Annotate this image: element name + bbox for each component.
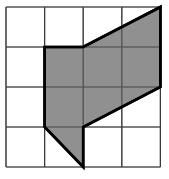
grid-figure	[0, 0, 169, 179]
